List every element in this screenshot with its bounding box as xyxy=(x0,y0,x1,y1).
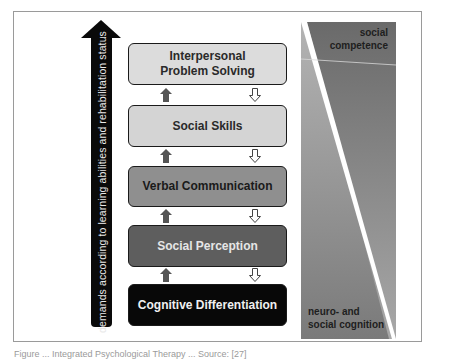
level-label-line2: Problem Solving xyxy=(160,64,255,79)
level-social-skills: Social Skills xyxy=(128,105,287,147)
up-arrow-icon xyxy=(160,149,172,163)
level-interpersonal-problem-solving: Interpersonal Problem Solving xyxy=(128,43,287,85)
level-social-perception: Social Perception xyxy=(128,225,287,267)
demands-arrow: demands according to learning abilities … xyxy=(81,20,121,327)
social-competence-label: social competence xyxy=(330,26,388,52)
level-label-line1: Interpersonal xyxy=(160,49,255,64)
up-arrow-icon xyxy=(160,88,172,102)
down-arrow-icon xyxy=(249,88,261,102)
level-label: Social Skills xyxy=(172,119,242,134)
figure-caption: Figure ... Integrated Psychological Ther… xyxy=(14,348,246,360)
level-label: Cognitive Differentiation xyxy=(138,298,277,313)
down-arrow-icon xyxy=(249,268,261,282)
level-label: Verbal Communication xyxy=(142,179,272,194)
level-cognitive-differentiation: Cognitive Differentiation xyxy=(128,284,287,326)
up-arrow-icon xyxy=(160,209,172,223)
level-verbal-communication: Verbal Communication xyxy=(128,166,287,207)
neuro-social-cognition-label: neuro- and social cognition xyxy=(308,305,384,331)
competence-gradient-panel: social competence neuro- and social cogn… xyxy=(301,22,396,339)
down-arrow-icon xyxy=(249,209,261,223)
demands-arrow-label: demands according to learning abilities … xyxy=(96,31,108,333)
up-arrow-icon xyxy=(160,268,172,282)
down-arrow-icon xyxy=(249,149,261,163)
level-label: Social Perception xyxy=(157,239,258,254)
